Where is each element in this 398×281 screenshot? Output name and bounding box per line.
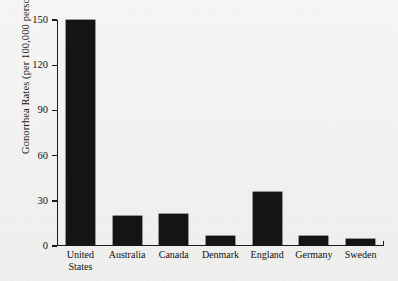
y-tick-mark: 120	[52, 65, 57, 66]
x-axis-label: United States	[57, 249, 104, 272]
bar	[346, 239, 375, 245]
chart-figure: Gonorrhea Rates (per 100,000 persons) 03…	[0, 0, 398, 281]
y-tick-label: 90	[38, 105, 49, 116]
plot-area: 0306090120150 United StatesAustraliaCana…	[57, 20, 384, 246]
y-tick-label: 0	[43, 240, 48, 251]
x-axis-label: Germany	[291, 249, 338, 261]
y-axis-line	[57, 20, 58, 246]
y-tick-mark: 150	[52, 19, 57, 20]
y-tick-mark: 90	[52, 110, 57, 111]
y-tick-label: 120	[32, 60, 48, 71]
x-axis-end-tick	[383, 241, 384, 246]
bar	[66, 20, 95, 244]
x-axis-label: Denmark	[197, 249, 244, 261]
y-tick-label: 150	[32, 14, 48, 25]
x-axis-label: Australia	[104, 249, 151, 261]
bar	[299, 236, 328, 245]
y-tick-mark: 0	[52, 245, 57, 246]
bar	[159, 214, 188, 244]
x-axis-label: Canada	[150, 249, 197, 261]
bar	[253, 192, 282, 245]
x-axis-label: England	[244, 249, 291, 261]
bar	[113, 216, 142, 245]
y-tick-mark: 60	[52, 155, 57, 156]
y-tick-label: 60	[38, 150, 49, 161]
y-tick-mark: 30	[52, 200, 57, 201]
y-axis-title: Gonorrhea Rates (per 100,000 persons)	[20, 0, 31, 185]
x-axis-label: Sweden	[337, 249, 384, 261]
y-tick-label: 30	[38, 195, 49, 206]
x-axis-line	[57, 245, 384, 246]
bar	[206, 236, 235, 245]
